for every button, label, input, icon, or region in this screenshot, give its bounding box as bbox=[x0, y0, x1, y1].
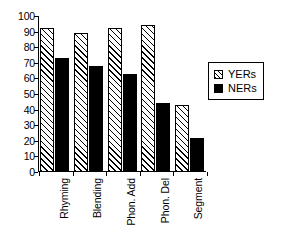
y-axis-tick-label: 20 bbox=[24, 136, 35, 147]
filled-square-icon bbox=[214, 84, 223, 93]
bar-ners-blending bbox=[89, 66, 103, 172]
bar-yers-rhyming bbox=[40, 28, 54, 172]
legend-item-yers: YERs bbox=[214, 67, 257, 81]
bar-chart-figure: 0102030405060708090100 RhymingBlendingPh… bbox=[0, 0, 292, 242]
x-axis-label-phon-del: Phon. Del bbox=[160, 178, 171, 223]
y-axis-tick-label: 100 bbox=[18, 11, 35, 22]
y-axis-tick-label: 80 bbox=[24, 42, 35, 53]
x-axis-tick bbox=[39, 172, 40, 176]
x-axis-tick bbox=[173, 172, 174, 176]
y-axis-tick-label: 70 bbox=[24, 58, 35, 69]
x-axis-label-rhyming: Rhyming bbox=[59, 178, 70, 219]
x-axis-tick bbox=[73, 172, 74, 176]
x-axis-tick bbox=[207, 172, 208, 176]
x-axis-label-blending: Blending bbox=[92, 178, 103, 218]
bar-yers-segment bbox=[175, 105, 189, 172]
legend-item-ners: NERs bbox=[214, 81, 257, 95]
y-axis-tick-label: 30 bbox=[24, 120, 35, 131]
x-axis-tick bbox=[140, 172, 141, 176]
legend-label-ners: NERs bbox=[228, 83, 257, 94]
x-axis-tick bbox=[106, 172, 107, 176]
plot-area: 0102030405060708090100 bbox=[38, 16, 206, 172]
chart-legend: YERs NERs bbox=[208, 62, 264, 100]
y-axis-tick-label: 60 bbox=[24, 73, 35, 84]
y-axis-tick-label: 10 bbox=[24, 151, 35, 162]
hatched-square-icon bbox=[214, 70, 223, 79]
bars-layer bbox=[39, 16, 206, 172]
y-axis-tick-label: 40 bbox=[24, 104, 35, 115]
x-axis-label-segment: Segment bbox=[193, 178, 204, 219]
bar-ners-phon-del bbox=[156, 103, 170, 172]
bar-ners-phon-add bbox=[123, 74, 137, 172]
bar-yers-phon-del bbox=[141, 25, 155, 172]
y-axis-tick-label: 0 bbox=[29, 167, 35, 178]
y-axis-tick-label: 90 bbox=[24, 26, 35, 37]
bar-yers-blending bbox=[74, 33, 88, 172]
x-axis-category-labels: RhymingBlendingPhon. AddPhon. DelSegment bbox=[39, 178, 207, 240]
legend-label-yers: YERs bbox=[228, 69, 256, 80]
bar-ners-rhyming bbox=[55, 58, 69, 172]
bar-yers-phon-add bbox=[108, 28, 122, 172]
x-axis-label-phon-add: Phon. Add bbox=[126, 178, 137, 226]
y-axis-tick-label: 50 bbox=[24, 89, 35, 100]
bar-ners-segment bbox=[190, 138, 204, 172]
